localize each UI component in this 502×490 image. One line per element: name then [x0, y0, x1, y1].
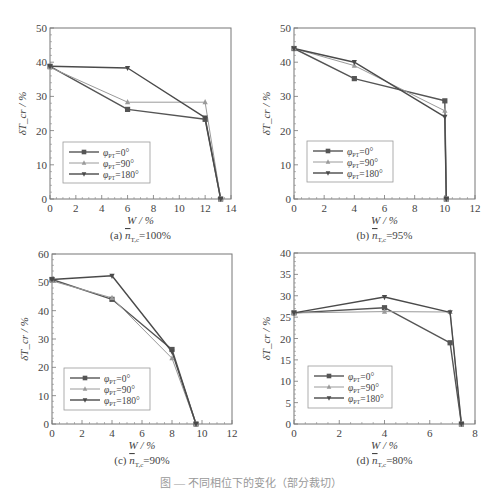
- x-tick-label: 0: [291, 202, 297, 214]
- legend-label: φPT=0°: [104, 374, 130, 385]
- subplot-caption: (d) nT,c=80%: [356, 454, 412, 469]
- x-tick-label: 12: [200, 202, 211, 214]
- y-tick-label: 0: [286, 418, 292, 430]
- y-tick-label: 35: [280, 268, 292, 280]
- triangle-down-marker-icon: [442, 115, 447, 120]
- legend-label: φPT=90°: [103, 159, 134, 170]
- y-tick-label: 10: [36, 159, 48, 171]
- x-tick-label: 4: [99, 202, 105, 214]
- x-tick-label: 10: [174, 202, 186, 214]
- legend-label: φPT=90°: [348, 383, 379, 394]
- y-tick-label: 30: [36, 90, 48, 102]
- y-tick-label: 40: [280, 56, 292, 68]
- y-tick-label: 20: [38, 361, 50, 373]
- y-tick-label: 30: [280, 90, 292, 102]
- figure-caption: 图 — 不同相位下的变化（部分裁切）: [0, 474, 502, 490]
- y-tick-label: 50: [280, 22, 292, 34]
- y-tick-label: 60: [38, 248, 50, 260]
- chart-a: 0246810121401020304050W / %δT_cr / %(a) …: [16, 22, 237, 244]
- y-tick-label: 0: [44, 418, 50, 430]
- legend: φPT=0°φPT=90°φPT=180°: [308, 366, 392, 408]
- x-tick-label: 8: [169, 427, 175, 439]
- x-tick-label: 0: [49, 427, 55, 439]
- x-tick-label: 12: [227, 427, 238, 439]
- x-tick-label: 6: [125, 202, 131, 214]
- y-axis-label: δT_cr / %: [16, 92, 28, 136]
- y-tick-label: 50: [38, 276, 50, 288]
- x-tick-label: 14: [226, 202, 238, 214]
- x-tick-label: 2: [73, 202, 79, 214]
- square-marker-icon: [83, 376, 88, 381]
- y-axis-label: δT_cr / %: [18, 317, 30, 361]
- square-marker-icon: [326, 149, 331, 154]
- x-tick-label: 8: [472, 427, 478, 439]
- square-marker-icon: [352, 76, 357, 81]
- y-axis-label: δT_cr / %: [260, 92, 272, 136]
- chart-c: 0246810120102030405060W / %δT_cr / %(c) …: [18, 248, 238, 469]
- legend-label: φPT=0°: [348, 372, 374, 383]
- x-tick-label: 6: [139, 427, 145, 439]
- x-tick-label: 4: [109, 427, 115, 439]
- x-tick-label: 10: [439, 202, 451, 214]
- legend-label: φPT=0°: [103, 148, 129, 159]
- x-tick-label: 8: [151, 202, 157, 214]
- square-marker-icon: [442, 98, 447, 103]
- chart-d: 024680510152025303540W / %δT_cr / %(d) n…: [260, 247, 478, 469]
- x-tick-label: 4: [352, 202, 358, 214]
- x-tick-label: 10: [197, 427, 209, 439]
- y-tick-label: 10: [280, 159, 292, 171]
- y-tick-label: 25: [280, 311, 292, 323]
- x-tick-label: 2: [337, 427, 343, 439]
- subplot-caption: (c) nT,c=90%: [114, 454, 169, 469]
- x-tick-label: 0: [47, 202, 53, 214]
- x-tick-label: 0: [291, 427, 297, 439]
- y-tick-label: 20: [36, 125, 48, 137]
- y-tick-label: 40: [38, 305, 50, 317]
- legend: φPT=0°φPT=90°φPT=180°: [64, 368, 150, 410]
- x-axis-label: W / %: [371, 214, 398, 226]
- x-tick-label: 6: [427, 427, 433, 439]
- legend: φPT=0°φPT=90°φPT=180°: [307, 141, 393, 182]
- y-tick-label: 20: [280, 333, 292, 345]
- x-tick-label: 6: [382, 202, 388, 214]
- legend-label: φPT=90°: [104, 385, 135, 396]
- y-tick-label: 40: [36, 56, 48, 68]
- y-tick-label: 20: [280, 125, 292, 137]
- x-tick-label: 4: [382, 427, 388, 439]
- y-tick-label: 50: [36, 22, 48, 34]
- legend: φPT=0°φPT=90°φPT=180°: [63, 142, 150, 183]
- square-marker-icon: [82, 150, 87, 155]
- x-axis-label: W / %: [129, 439, 156, 451]
- x-axis-label: W / %: [371, 439, 398, 451]
- y-tick-label: 0: [286, 193, 292, 205]
- y-tick-label: 0: [42, 193, 48, 205]
- y-tick-label: 30: [38, 333, 50, 345]
- x-axis-label: W / %: [127, 214, 154, 226]
- x-tick-label: 2: [79, 427, 85, 439]
- x-tick-label: 8: [412, 202, 418, 214]
- square-marker-icon: [125, 107, 130, 112]
- subplot-caption: (a) nT,c=100%: [110, 229, 171, 244]
- y-tick-label: 30: [280, 290, 292, 302]
- y-tick-label: 5: [286, 397, 292, 409]
- y-tick-label: 15: [280, 354, 292, 366]
- x-tick-label: 2: [321, 202, 327, 214]
- y-tick-label: 10: [280, 375, 292, 387]
- legend-label: φPT=0°: [347, 147, 373, 158]
- y-tick-label: 40: [280, 247, 292, 259]
- legend-label: φPT=90°: [347, 158, 378, 169]
- y-tick-label: 10: [38, 390, 50, 402]
- y-axis-label: δT_cr / %: [260, 317, 272, 361]
- chart-b: 02468101201020304050W / %δT_cr / %(b) nT…: [260, 22, 481, 244]
- subplot-caption: (b) nT,c=95%: [356, 229, 412, 244]
- square-marker-icon: [448, 340, 453, 345]
- x-tick-label: 12: [470, 202, 481, 214]
- square-marker-icon: [327, 374, 332, 379]
